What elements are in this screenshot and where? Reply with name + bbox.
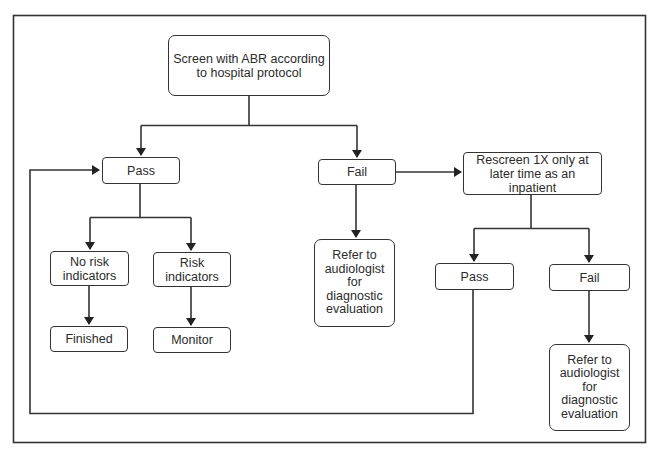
node-rescreen: Rescreen 1X only at later time as an inp…	[463, 152, 602, 195]
node-risk-indicators: Risk indicators	[153, 252, 231, 287]
node-fail-1: Fail	[318, 159, 396, 185]
node-label: Screen with ABR according to hospital pr…	[173, 52, 325, 80]
node-label: Monitor	[171, 333, 213, 347]
node-label: No risk indicators	[63, 255, 117, 283]
node-start-screen-abr: Screen with ABR according to hospital pr…	[168, 35, 330, 96]
node-pass-1: Pass	[102, 157, 180, 184]
node-label: Pass	[461, 270, 489, 284]
node-label: Refer to audiologist for diagnostic eval…	[560, 354, 620, 422]
node-label: Finished	[65, 332, 112, 346]
node-label: Fail	[347, 165, 367, 179]
node-pass-2: Pass	[435, 263, 514, 290]
node-label: Pass	[127, 164, 155, 178]
edge-pass1-split	[140, 183, 191, 218]
node-label: Refer to audiologist for diagnostic eval…	[325, 249, 385, 317]
node-label: Rescreen 1X only at later time as an inp…	[472, 153, 593, 195]
node-label: Risk indicators	[165, 256, 219, 284]
node-finished: Finished	[50, 326, 128, 352]
node-label: Fail	[579, 271, 599, 285]
node-monitor: Monitor	[153, 327, 231, 353]
node-fail-2: Fail	[549, 264, 630, 291]
node-refer-audiologist-1: Refer to audiologist for diagnostic eval…	[314, 239, 395, 327]
node-refer-audiologist-2: Refer to audiologist for diagnostic eval…	[549, 344, 630, 431]
edge-pass2-loopback	[30, 170, 473, 414]
node-no-risk-indicators: No risk indicators	[50, 251, 129, 286]
